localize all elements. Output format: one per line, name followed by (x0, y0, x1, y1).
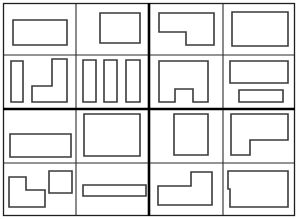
cell-3-1-wide-rectangle (10, 134, 71, 157)
cell-2-4 (230, 61, 288, 102)
packing-layout-diagram (0, 0, 298, 219)
cell-2-3-u-shape-arch (159, 61, 208, 102)
cell-4-3 (158, 172, 212, 205)
cell-3-4-long-thin-rectangle (83, 185, 146, 196)
cell-1-3-l-shape-foot-left (32, 59, 67, 102)
cell-2-3 (159, 61, 208, 102)
cell-3-2 (84, 114, 140, 156)
cell-2-4-wide-rectangle-upper (230, 61, 288, 83)
cell-1-1 (13, 20, 67, 45)
cell-4-3-l-shape-step-up-right (158, 172, 212, 205)
cell-2-4-wide-rectangle-lower (239, 90, 283, 102)
cell-1-4-narrow-rectangle-middle (104, 60, 117, 102)
cell-1-4 (83, 60, 140, 102)
cell-3-4 (83, 185, 146, 196)
cell-3-3-l-shape-step-down-right (9, 177, 45, 207)
cell-4-1-tall-rectangle (174, 114, 208, 155)
cell-2-1-l-shape-notch-bottom-left (159, 13, 214, 45)
cell-1-3 (11, 59, 67, 102)
cell-2-1 (159, 13, 214, 45)
cell-4-4-rectangle-with-left-notch (228, 171, 288, 207)
cell-4-2 (231, 114, 288, 155)
cell-1-2-square (100, 13, 140, 43)
cell-3-2-large-rectangle (84, 114, 140, 156)
cell-3-3-small-square (49, 171, 72, 193)
cell-1-3-tall-narrow-rectangle (11, 61, 23, 102)
cell-4-1 (174, 114, 208, 155)
cell-4-2-l-shape-notch-bottom-left (231, 114, 288, 155)
figure-canvas (0, 0, 298, 219)
cell-3-3 (9, 171, 72, 207)
cell-1-4-narrow-rectangle-left (83, 60, 96, 102)
cell-1-4-narrow-rectangle-right (126, 60, 140, 102)
cell-1-1-wide-rectangle (13, 20, 67, 45)
cell-1-2 (100, 13, 140, 43)
panel-bottom-left (9, 114, 146, 207)
cell-2-2 (232, 12, 288, 46)
cell-2-2-large-rectangle (232, 12, 288, 46)
cell-4-4 (228, 171, 288, 207)
cell-3-1 (10, 134, 71, 157)
